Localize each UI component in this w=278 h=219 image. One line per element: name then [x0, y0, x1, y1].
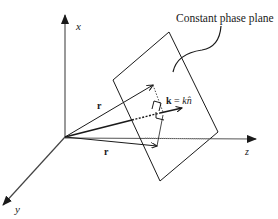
r-label-upper: r: [97, 100, 102, 111]
k-vector-tip: [160, 108, 182, 113]
right-angle-stem: [156, 118, 164, 120]
k-vector-label: k = kn̂: [166, 95, 192, 106]
right-angle-marker: [152, 101, 161, 111]
y-axis: [3, 137, 65, 205]
z-axis-label: z: [244, 146, 249, 157]
wave-vector-diagram: Constant phase plane x y z r r k = kn̂: [0, 0, 278, 219]
x-axis-label: x: [75, 20, 81, 32]
k-eq: =: [172, 95, 183, 106]
dotted-projection-upper: [153, 85, 163, 112]
n-hat: n̂: [187, 95, 192, 106]
z-axis: [65, 138, 256, 139]
y-axis-label: y: [14, 203, 20, 215]
r-vector-upper: [65, 85, 153, 137]
k-vector-solid: [65, 120, 132, 137]
plane-label-pointer: [173, 26, 221, 72]
r-label-lower: r: [104, 146, 109, 157]
plane-label: Constant phase plane: [176, 12, 274, 25]
constant-phase-plane: [113, 32, 218, 181]
